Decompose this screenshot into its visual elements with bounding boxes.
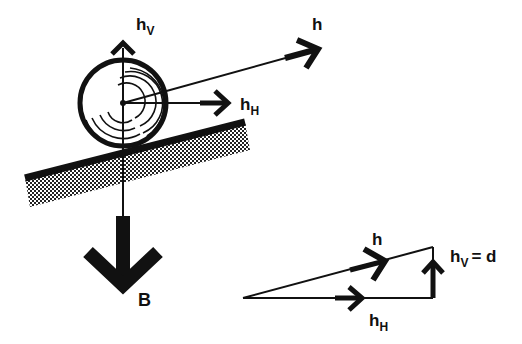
triangle-h-label: h [372,230,382,249]
weight-label: B [138,290,151,310]
triangle-hv-label: hV= d [450,247,496,270]
weight-arrow-icon [88,216,158,285]
triangle-hh-label: hH [369,311,388,334]
h-label: h [312,15,322,34]
hh-label: hH [240,95,259,118]
hv-label: hV [136,15,154,38]
diagram-svg: hV hH h B h hV= d hH [0,0,522,344]
diagram-canvas: hV hH h B h hV= d hH [0,0,522,344]
vector-triangle [243,247,443,310]
